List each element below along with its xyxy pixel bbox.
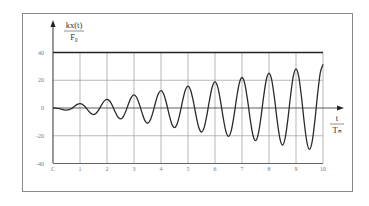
x-tick-label: 5 (187, 166, 190, 172)
y-axis-arrow-icon (51, 20, 56, 27)
x-tick-label: 3 (133, 166, 136, 172)
x-axis-arrow-icon (337, 106, 344, 111)
x-tick-label: 7 (241, 166, 244, 172)
y-tick-label: -20 (36, 133, 44, 139)
x-tick-label: C (51, 166, 55, 172)
chart: C1234567891040200-20-40 kx(t) F₀ t Tₙ (0, 0, 369, 206)
y-tick-label: 40 (38, 50, 44, 56)
x-tick-label: 2 (106, 166, 109, 172)
x-tick-label: 9 (295, 166, 298, 172)
y-label-denominator: F₀ (70, 32, 78, 42)
y-tick-label: -40 (36, 161, 44, 167)
x-tick-label: 6 (214, 166, 217, 172)
x-tick-label: 8 (268, 166, 271, 172)
x-tick-label: 1 (79, 166, 82, 172)
y-tick-label: 20 (38, 77, 44, 83)
y-tick-label: 0 (41, 105, 44, 111)
x-tick-label: 10 (320, 166, 326, 172)
x-tick-label: 4 (160, 166, 163, 172)
x-label-numerator: t (336, 113, 339, 123)
x-label-denominator: Tₙ (332, 125, 341, 135)
y-label-numerator: kx(t) (66, 20, 83, 30)
